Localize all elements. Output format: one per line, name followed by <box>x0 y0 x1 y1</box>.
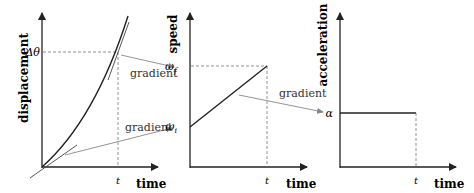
tangent-at-origin <box>30 145 77 178</box>
gradient-label: gradient <box>279 87 327 100</box>
y-tick-bottom: ωi <box>165 120 177 135</box>
displacement-graph: displacement Δθ t time <box>17 13 167 191</box>
gradient-arrows-2: gradient <box>239 87 327 112</box>
displacement-curve <box>42 16 128 167</box>
y-tick-label: α <box>326 107 334 120</box>
x-tick-label: t <box>116 175 121 186</box>
x-axis-label: time <box>136 177 167 191</box>
x-axis-label: time <box>286 177 317 191</box>
x-tick-label: t <box>414 175 419 186</box>
tangent-at-t <box>108 22 129 80</box>
gradient-arrows-1: gradient gradient <box>65 55 178 155</box>
speed-line <box>190 66 267 127</box>
speed-graph: speed ωf ωi t time <box>165 13 317 191</box>
y-axis-label: speed <box>166 14 180 53</box>
y-tick-label: Δθ <box>24 46 40 59</box>
y-tick-top: ωf <box>165 60 179 75</box>
acceleration-graph: acceleration α t time <box>316 3 465 191</box>
x-axis-label: time <box>434 177 465 191</box>
y-axis-label: acceleration <box>316 3 330 86</box>
x-tick-label: t <box>265 175 270 186</box>
kinematics-diagram: displacement Δθ t time gradient gradient… <box>0 0 474 193</box>
